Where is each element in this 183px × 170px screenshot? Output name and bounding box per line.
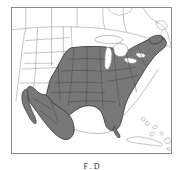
map-frame [11,7,172,154]
figure-caption: F . D [0,162,183,170]
figure-container: F . D [0,0,183,170]
lake-superior [95,35,123,43]
map-svg [12,8,171,153]
lake-huron [113,44,127,57]
